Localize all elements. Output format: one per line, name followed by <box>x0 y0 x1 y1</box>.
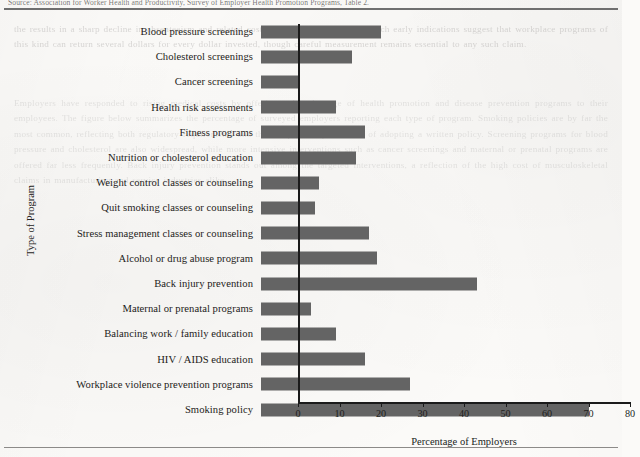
bar-row: Workplace violence prevention programs <box>45 372 590 397</box>
y-axis-title: Type of Program <box>22 160 38 280</box>
bar-track <box>261 95 590 120</box>
bar-row: Nutrition or cholesterol education <box>45 145 590 170</box>
bar[interactable] <box>261 353 365 366</box>
plot-area: Blood pressure screeningsCholesterol scr… <box>45 18 590 396</box>
bar[interactable] <box>261 126 365 139</box>
bar-track <box>261 170 590 195</box>
bar[interactable] <box>261 201 315 214</box>
bar-track <box>261 296 590 321</box>
category-label: Stress management classes or counseling <box>45 228 261 239</box>
category-label: HIV / AIDS education <box>45 354 261 365</box>
x-tick-mark <box>589 402 590 407</box>
bar-row: Back injury prevention <box>45 271 590 296</box>
bar-row: Cholesterol screenings <box>45 44 590 69</box>
bar-track <box>261 221 590 246</box>
bar-track <box>261 120 590 145</box>
y-axis-line <box>298 24 300 402</box>
bar-track <box>261 372 590 397</box>
category-label: Blood pressure screenings <box>45 26 261 37</box>
bar-row: HIV / AIDS education <box>45 347 590 372</box>
category-label: Fitness programs <box>45 127 261 138</box>
clipped-source-caption: Source: Association for Worker Health an… <box>8 0 508 7</box>
bar-track <box>261 321 590 346</box>
x-tick-mark <box>381 402 382 407</box>
bar[interactable] <box>261 252 377 265</box>
category-label: Back injury prevention <box>45 278 261 289</box>
bar-row: Blood pressure screenings <box>45 19 590 44</box>
bar-track <box>261 19 590 44</box>
bar-track <box>261 145 590 170</box>
x-tick-label: 60 <box>532 408 562 419</box>
x-tick-mark <box>630 402 631 407</box>
bar-row: Weight control classes or counseling <box>45 170 590 195</box>
bar-track <box>261 246 590 271</box>
bar[interactable] <box>261 75 298 88</box>
horizontal-rule-top <box>4 8 618 10</box>
category-label: Nutrition or cholesterol education <box>45 152 261 163</box>
bar-row: Quit smoking classes or counseling <box>45 195 590 220</box>
x-tick-label: 10 <box>325 408 355 419</box>
x-tick-label: 50 <box>491 408 521 419</box>
bar-track <box>261 44 590 69</box>
x-tick-mark <box>298 402 299 407</box>
bar[interactable] <box>261 25 381 38</box>
bar-track <box>261 69 590 94</box>
bar-row: Alcohol or drug abuse program <box>45 246 590 271</box>
x-tick-label: 70 <box>574 408 604 419</box>
x-tick-label: 30 <box>408 408 438 419</box>
bar-row: Maternal or prenatal programs <box>45 296 590 321</box>
bar[interactable] <box>261 277 477 290</box>
category-label: Cancer screenings <box>45 76 261 87</box>
x-tick-mark <box>464 402 465 407</box>
x-tick-label: 0 <box>283 408 313 419</box>
x-tick-label: 20 <box>366 408 396 419</box>
horizontal-rule-bottom <box>4 447 618 448</box>
category-label: Balancing work / family education <box>45 328 261 339</box>
bar-track <box>261 271 590 296</box>
x-axis-title: Percentage of Employers <box>298 436 630 447</box>
bar[interactable] <box>261 176 319 189</box>
bar-row: Cancer screenings <box>45 69 590 94</box>
category-label: Workplace violence prevention programs <box>45 379 261 390</box>
bar-row: Stress management classes or counseling <box>45 221 590 246</box>
bar[interactable] <box>261 227 369 240</box>
bar-row: Health risk assessments <box>45 95 590 120</box>
bar[interactable] <box>261 151 356 164</box>
bar-chart: Type of Program Blood pressure screening… <box>0 12 622 444</box>
category-label: Alcohol or drug abuse program <box>45 253 261 264</box>
category-label: Weight control classes or counseling <box>45 177 261 188</box>
bar-track <box>261 195 590 220</box>
bar-track <box>261 347 590 372</box>
bar-row: Balancing work / family education <box>45 321 590 346</box>
x-tick-label: 80 <box>615 408 640 419</box>
category-label: Smoking policy <box>45 404 261 415</box>
category-label: Cholesterol screenings <box>45 51 261 62</box>
category-label: Maternal or prenatal programs <box>45 303 261 314</box>
x-tick-mark <box>340 402 341 407</box>
bar-row: Fitness programs <box>45 120 590 145</box>
x-tick-label: 40 <box>449 408 479 419</box>
bar[interactable] <box>261 50 352 63</box>
category-label: Quit smoking classes or counseling <box>45 202 261 213</box>
x-tick-mark <box>547 402 548 407</box>
x-tick-mark <box>506 402 507 407</box>
category-label: Health risk assessments <box>45 102 261 113</box>
bar[interactable] <box>261 302 311 315</box>
x-tick-mark <box>423 402 424 407</box>
bar[interactable] <box>261 378 410 391</box>
